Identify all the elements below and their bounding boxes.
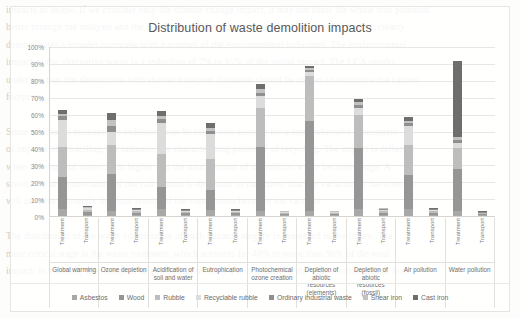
x-axis-sublabel: Treatment — [405, 218, 411, 247]
x-axis-sublabel: Transport — [83, 218, 89, 245]
bar-segment[interactable] — [354, 115, 363, 149]
bar-segment[interactable] — [157, 209, 166, 216]
bar-segment[interactable] — [206, 159, 215, 189]
bar-segment[interactable] — [256, 211, 265, 216]
bar-segment[interactable] — [58, 209, 67, 216]
bar-segment[interactable] — [107, 145, 116, 174]
bar-segment[interactable] — [231, 215, 240, 216]
stacked-bar[interactable] — [206, 123, 215, 216]
chart-legend: AsbestosWoodRubbleRecyclable rubbleOrdin… — [11, 294, 509, 301]
legend-divider — [11, 283, 509, 284]
bar-segment[interactable] — [107, 120, 116, 127]
bar-segment[interactable] — [354, 148, 363, 209]
bar-segment[interactable] — [256, 108, 265, 147]
x-axis-sublabel: Treatment — [109, 218, 115, 247]
stacked-bar[interactable] — [280, 211, 289, 216]
legend-item[interactable]: Wood — [119, 294, 145, 301]
legend-item[interactable]: Rubble — [155, 294, 185, 301]
bar-segment[interactable] — [58, 120, 67, 147]
legend-item[interactable]: Recyclable rubble — [196, 294, 258, 301]
bar-segment[interactable] — [379, 215, 388, 216]
x-axis-sublabel: Treatment — [158, 218, 164, 247]
legend-swatch-icon — [196, 295, 201, 300]
bar-segment[interactable] — [404, 175, 413, 209]
bar-segment[interactable] — [256, 147, 265, 211]
x-axis-category-label: Photochemical ozone creation — [248, 262, 296, 281]
legend-item[interactable]: Shear iron — [363, 294, 402, 301]
x-axis-category-label: Air pollution — [396, 262, 444, 274]
bar-segment[interactable] — [157, 123, 166, 153]
bar-segment[interactable] — [206, 190, 215, 210]
stacked-bar[interactable] — [107, 113, 116, 216]
bar-segment[interactable] — [305, 121, 314, 211]
bar-segment[interactable] — [354, 108, 363, 115]
bar-segment[interactable] — [107, 211, 116, 216]
bar-segment[interactable] — [404, 126, 413, 145]
bar-segment[interactable] — [429, 215, 438, 216]
bar-segment[interactable] — [453, 211, 462, 216]
bar-segment[interactable] — [404, 209, 413, 216]
stacked-bar[interactable] — [256, 84, 265, 216]
bar-segment[interactable] — [107, 174, 116, 211]
stacked-bar[interactable] — [305, 66, 314, 216]
bar-segment[interactable] — [107, 113, 116, 120]
stacked-bar[interactable] — [157, 111, 166, 216]
bar-group — [248, 47, 297, 216]
stacked-bar[interactable] — [453, 61, 462, 216]
legend-item[interactable]: Asbestos — [72, 294, 108, 301]
legend-label: Wood — [127, 294, 145, 301]
bar-segment[interactable] — [305, 76, 314, 122]
bar-segment[interactable] — [354, 209, 363, 216]
y-axis-tick-label: 50% — [31, 129, 44, 136]
y-axis-tick-label: 0% — [35, 214, 44, 221]
x-axis-category-label: Global warming — [50, 262, 98, 274]
x-axis-category-label: Water pollution — [446, 262, 494, 274]
bar-group — [347, 47, 396, 216]
bar-segment[interactable] — [157, 154, 166, 188]
bar-segment[interactable] — [132, 215, 141, 216]
y-axis-tick-label: 10% — [31, 197, 44, 204]
bar-segment[interactable] — [478, 215, 487, 216]
stacked-bar[interactable] — [231, 209, 240, 216]
stacked-bar[interactable] — [132, 208, 141, 216]
y-axis-tick-label: 100% — [27, 44, 44, 51]
bar-segment[interactable] — [280, 215, 289, 216]
bar-segment[interactable] — [58, 147, 67, 177]
legend-label: Rubble — [163, 294, 185, 301]
legend-item[interactable]: Ordinary industrial waste — [269, 294, 352, 301]
x-axis-category-label: Eutrophication — [198, 262, 246, 274]
y-axis-tick-label: 80% — [31, 78, 44, 85]
stacked-bar[interactable] — [330, 211, 339, 216]
stacked-bar[interactable] — [83, 206, 92, 216]
bar-segment[interactable] — [206, 210, 215, 216]
stacked-bar[interactable] — [429, 208, 438, 216]
x-axis-subcategory-row: TreatmentTransport — [297, 218, 345, 262]
bar-segment[interactable] — [58, 177, 67, 209]
stacked-bar[interactable] — [379, 208, 388, 216]
bar-segment[interactable] — [453, 169, 462, 211]
bar-segment[interactable] — [453, 148, 462, 168]
bar-segment[interactable] — [330, 215, 339, 216]
bar-segment[interactable] — [256, 96, 265, 108]
bar-segment[interactable] — [83, 215, 92, 216]
x-axis-category-label: Acidification of soil and water — [149, 262, 197, 281]
bar-segment[interactable] — [404, 145, 413, 175]
bar-segment[interactable] — [453, 61, 462, 137]
stacked-bar[interactable] — [181, 209, 190, 216]
bar-segment[interactable] — [305, 211, 314, 216]
legend-label: Cast iron — [421, 294, 448, 301]
stacked-bar[interactable] — [404, 117, 413, 216]
x-axis-subcategory-row: TreatmentTransport — [347, 218, 395, 262]
bar-segment[interactable] — [206, 134, 215, 159]
x-axis-subcategory-row: TreatmentTransport — [198, 218, 246, 262]
legend-item[interactable]: Cast iron — [413, 294, 448, 301]
bar-segment[interactable] — [107, 132, 116, 146]
bar-segment[interactable] — [181, 215, 190, 216]
stacked-bar[interactable] — [354, 99, 363, 216]
bar-segment[interactable] — [157, 187, 166, 209]
x-axis-subcategory-row: TreatmentTransport — [149, 218, 197, 262]
x-axis-sublabel: Transport — [182, 218, 188, 245]
stacked-bar[interactable] — [58, 110, 67, 216]
stacked-bar[interactable] — [478, 211, 487, 216]
x-axis-sublabel: Transport — [429, 218, 435, 245]
